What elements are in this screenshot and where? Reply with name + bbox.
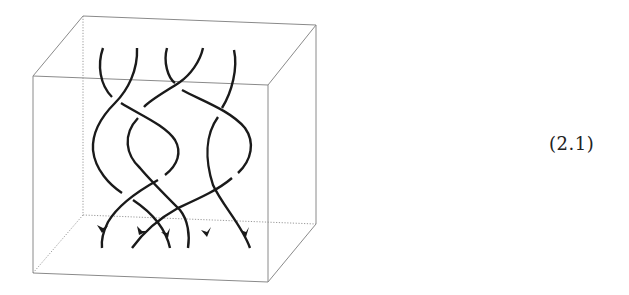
cube-visible-edges	[33, 16, 316, 282]
strand-1-top	[100, 48, 112, 97]
strand-4-top	[144, 48, 203, 107]
strand-5-top	[222, 50, 235, 108]
strand-3-top	[166, 48, 175, 83]
strand-3-mid	[182, 90, 251, 173]
braid-cube-diagram	[0, 0, 629, 295]
strand-2-low	[93, 150, 122, 193]
braid-strands	[93, 48, 251, 248]
equation-number: (2.1)	[549, 133, 594, 154]
cube-hidden-edges	[33, 16, 316, 273]
strand-1-mid	[121, 103, 178, 175]
arrow-icon-4	[201, 227, 211, 237]
strand-4-mid	[128, 118, 189, 248]
arrowheads	[97, 225, 249, 238]
strand-5-mid	[208, 117, 250, 248]
